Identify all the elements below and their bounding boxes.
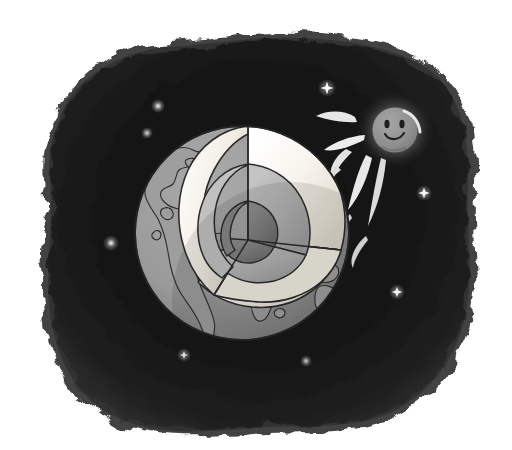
earth-cutaway-illustration: Earth Cutaway Showing Internal Layers wi… xyxy=(0,0,512,450)
sun-eye-right xyxy=(399,120,404,128)
illustration-canvas: Earth Cutaway Showing Internal Layers wi… xyxy=(0,0,512,450)
star xyxy=(389,284,405,300)
island-small-a xyxy=(152,231,161,240)
star xyxy=(177,348,191,362)
island-uk xyxy=(161,208,174,220)
star xyxy=(416,185,432,201)
artboard: Earth Cutaway Showing Internal Layers wi… xyxy=(0,0,512,450)
star xyxy=(151,99,165,113)
star xyxy=(318,79,336,97)
sun-eye-left xyxy=(384,120,389,128)
star xyxy=(141,127,153,139)
star xyxy=(103,235,119,251)
star xyxy=(300,355,312,367)
